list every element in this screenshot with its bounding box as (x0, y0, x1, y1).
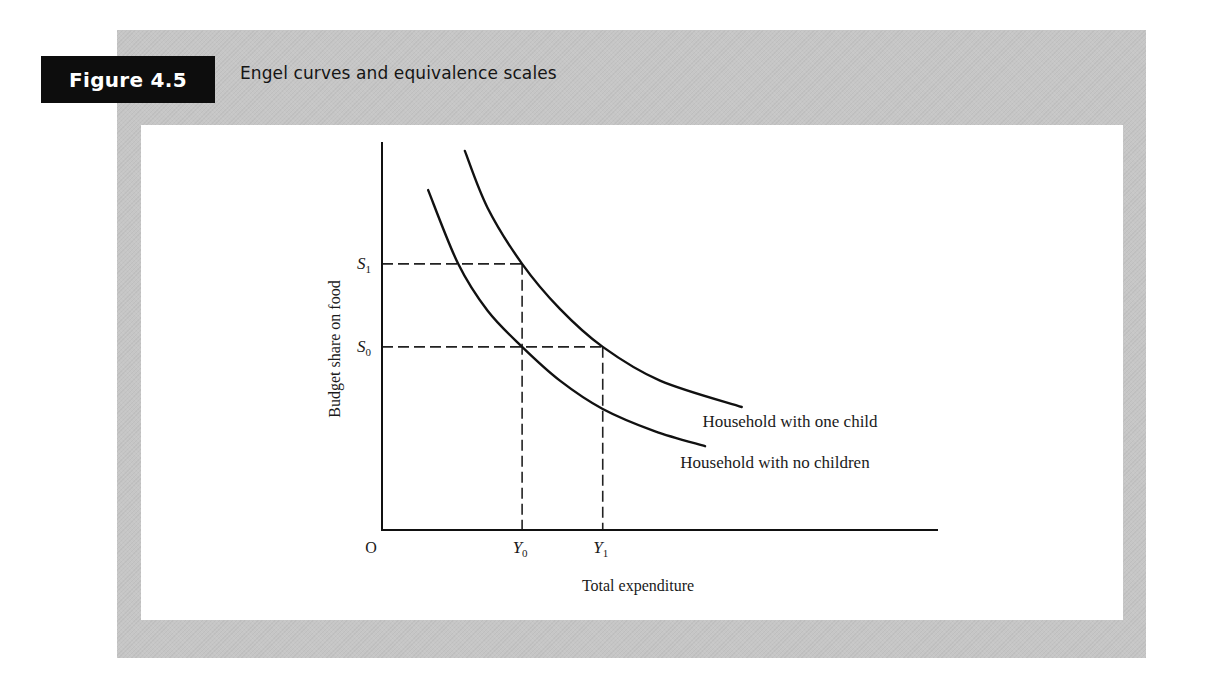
y-tick-label-1-subscript: 0 (366, 346, 372, 358)
curve-household-with-no-children (428, 190, 705, 446)
curves (428, 151, 742, 446)
series-label-household-with-one-child: Household with one child (702, 412, 878, 431)
y-axis-label: Budget share on food (326, 280, 344, 417)
y-tick-label-1: S0 (357, 337, 372, 358)
engel-chart: O Y0Y1 S1S0 Household with one childHous… (0, 0, 1208, 691)
x-tick-labels: Y0Y1 (513, 538, 609, 559)
x-tick-label-0-subscript: 0 (522, 547, 528, 559)
x-axis-label: Total expenditure (582, 577, 694, 595)
x-tick-label-1: Y1 (593, 538, 608, 559)
series-label-household-with-no-children: Household with no children (680, 453, 870, 472)
series-labels: Household with one childHousehold with n… (680, 412, 878, 472)
reference-lines (382, 264, 603, 530)
origin-label: O (365, 539, 377, 556)
y-tick-labels: S1S0 (357, 254, 372, 358)
y-tick-label-0: S1 (357, 254, 371, 275)
x-tick-label-0: Y0 (513, 538, 528, 559)
x-tick-label-1-subscript: 1 (603, 547, 609, 559)
y-tick-label-0-subscript: 1 (366, 263, 372, 275)
